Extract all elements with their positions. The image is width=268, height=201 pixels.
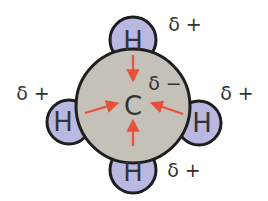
hydrogen-symbol-bottom: H <box>123 157 143 187</box>
charge-label-top: δ + <box>168 13 202 35</box>
carbon-symbol: C <box>124 91 142 121</box>
hydrogen-symbol-right: H <box>192 108 212 138</box>
charge-label-left: δ + <box>16 82 50 104</box>
charge-label-right: δ + <box>220 82 254 104</box>
hydrogen-symbol-left: H <box>53 107 73 137</box>
methane-diagram: C δ − H H H H δ + δ + δ + δ + <box>0 0 268 201</box>
charge-label-bottom: δ + <box>167 159 201 181</box>
hydrogen-symbol-top: H <box>123 26 143 56</box>
carbon-charge: δ − <box>148 72 182 94</box>
